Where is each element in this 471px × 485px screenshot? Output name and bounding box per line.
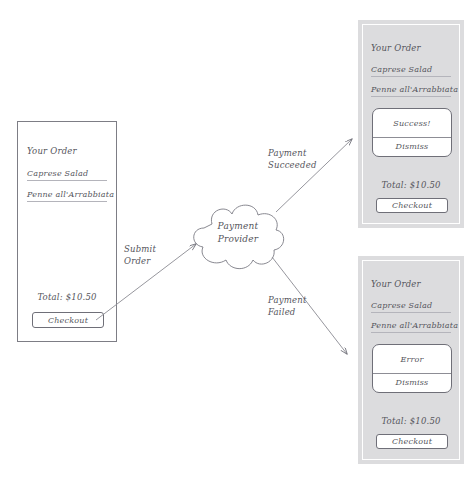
arrow-label-payment-succeeded: Payment Succeeded — [268, 147, 317, 171]
error-dialog-dismiss-button[interactable]: Dismiss — [373, 373, 451, 392]
order-total: Total: $10.50 — [18, 292, 116, 302]
order-panel: Your Order Caprese Salad Penne all'Arrab… — [17, 121, 117, 342]
arrow-label-line2: Order — [124, 255, 156, 267]
order-line-item-label: Caprese Salad — [27, 169, 88, 178]
arrow-label-payment-failed: Payment Failed — [268, 294, 307, 318]
checkout-button-label: Checkout — [48, 316, 88, 325]
order-line-item-label: Penne all'Arrabbiata — [27, 190, 114, 199]
arrow-label-line1: Submit — [124, 243, 156, 255]
order-line-item: Caprese Salad — [18, 169, 116, 178]
error-line-item: Caprese Salad — [363, 301, 459, 310]
success-line-item-rule — [371, 76, 451, 77]
error-line-item-rule — [371, 312, 451, 313]
order-panel-title: Your Order — [27, 146, 77, 156]
success-checkout-button-label: Checkout — [392, 201, 432, 210]
error-line-item: Penne all'Arrabbiata — [363, 321, 459, 330]
success-dialog: Success! Dismiss — [372, 108, 452, 157]
order-line-item-rule — [27, 180, 107, 181]
error-checkout-button[interactable]: Checkout — [376, 434, 448, 449]
error-total: Total: $10.50 — [363, 416, 459, 426]
order-line-item: Penne all'Arrabbiata — [18, 190, 116, 199]
success-line-item-label: Caprese Salad — [371, 65, 432, 74]
checkout-button[interactable]: Checkout — [32, 312, 104, 328]
error-panel: Your Order Caprese Salad Penne all'Arrab… — [362, 260, 460, 460]
arrow-label-line2: Failed — [268, 306, 307, 318]
cloud-label-line2: Provider — [186, 233, 290, 246]
error-panel-title: Your Order — [371, 279, 421, 289]
success-checkout-button[interactable]: Checkout — [376, 198, 448, 213]
arrow-label-line2: Succeeded — [268, 159, 317, 171]
arrow-label-line1: Payment — [268, 294, 307, 306]
success-line-item: Caprese Salad — [363, 65, 459, 74]
error-line-item-label: Caprese Salad — [371, 301, 432, 310]
success-line-item-rule — [371, 96, 451, 97]
success-total: Total: $10.50 — [363, 180, 459, 190]
cloud-label: Payment Provider — [186, 220, 290, 246]
arrow-label-submit-order: Submit Order — [124, 243, 156, 267]
arrow-label-line1: Payment — [268, 147, 317, 159]
error-line-item-rule — [371, 332, 451, 333]
success-dialog-message: Success! — [373, 109, 451, 137]
error-line-item-label: Penne all'Arrabbiata — [371, 321, 458, 330]
success-panel-title: Your Order — [371, 43, 421, 53]
success-dialog-dismiss-button[interactable]: Dismiss — [373, 137, 451, 156]
order-line-item-rule — [27, 201, 107, 202]
cloud-label-line1: Payment — [186, 220, 290, 233]
success-line-item: Penne all'Arrabbiata — [363, 85, 459, 94]
error-checkout-button-label: Checkout — [392, 437, 432, 446]
payment-provider-cloud: Payment Provider — [186, 198, 290, 278]
success-panel: Your Order Caprese Salad Penne all'Arrab… — [362, 24, 460, 224]
success-line-item-label: Penne all'Arrabbiata — [371, 85, 458, 94]
error-dialog: Error Dismiss — [372, 344, 452, 393]
error-dialog-message: Error — [373, 345, 451, 373]
